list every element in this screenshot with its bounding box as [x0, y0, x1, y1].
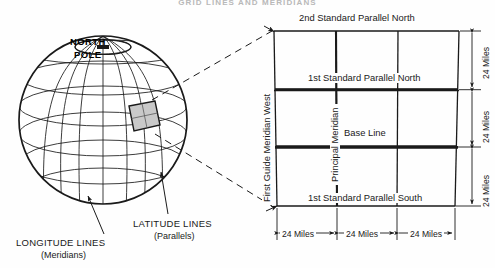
label-first-guide-meridian-west: First Guide Meridian West — [262, 91, 272, 205]
quadrangle-patch — [129, 101, 160, 131]
dimension-right-3: 24 Miles — [481, 173, 491, 209]
label-base-line: Base Line — [341, 128, 389, 138]
label-1st-standard-parallel-north: 1st Standard Parallel North — [305, 73, 424, 83]
legend-longitude-title: LONGITUDE LINES — [16, 238, 105, 248]
legend-longitude-subtitle: (Meridians) — [41, 251, 86, 260]
legend-latitude-subtitle: (Parallels) — [154, 232, 195, 241]
figure-canvas: GRID LINES AND MERIDIANS — [0, 0, 495, 268]
label-2nd-standard-parallel-north: 2nd Standard Parallel North — [296, 13, 418, 23]
globe-graphic — [19, 36, 187, 212]
dimension-bottom-2: 24 Miles — [344, 229, 380, 239]
globe-pole-label-north: NORTH — [70, 37, 106, 47]
dimension-right-1: 24 Miles — [481, 45, 491, 81]
dimension-bottom-3: 24 Miles — [408, 229, 444, 239]
globe-pole-label-pole: POLE — [74, 50, 101, 60]
dimension-right-2: 24 Miles — [481, 109, 491, 145]
grid-line-meridian-3 — [397, 31, 398, 206]
dimension-bottom-1: 24 Miles — [280, 229, 316, 239]
grid-horizontals — [274, 31, 459, 206]
grid-verticals — [274, 31, 459, 206]
legend-latitude-title: LATITUDE LINES — [133, 219, 212, 229]
grid-line-meridian-4 — [455, 31, 459, 206]
grid-line-first-guide-meridian-west — [274, 31, 277, 206]
township-grid — [274, 31, 459, 206]
label-principal-meridian: Principal Meridian — [330, 104, 340, 185]
label-1st-standard-parallel-south: 1st Standard Parallel South — [305, 193, 425, 203]
